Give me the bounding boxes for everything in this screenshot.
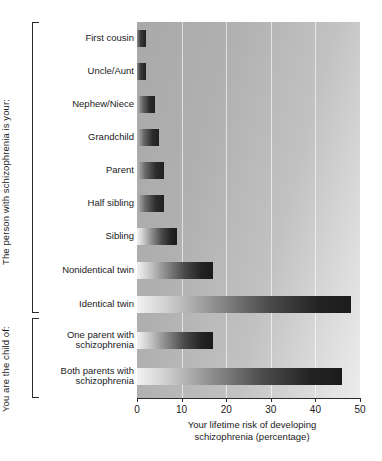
bar: [137, 228, 177, 245]
bar: [137, 262, 213, 279]
x-tick-label: 10: [167, 404, 197, 415]
x-tick-label: 40: [300, 404, 330, 415]
category-label: Half sibling: [42, 198, 134, 209]
category-label: One parent with schizophrenia: [42, 330, 134, 351]
x-tick-label: 20: [211, 404, 241, 415]
category-label: Sibling: [42, 231, 134, 242]
category-label: Parent: [42, 165, 134, 176]
category-label: First cousin: [42, 33, 134, 44]
plot-area: [137, 22, 360, 398]
x-tick-label: 0: [122, 404, 152, 415]
bar: [137, 332, 213, 349]
bar: [137, 296, 351, 313]
category-label: Both parents with schizophrenia: [42, 366, 134, 387]
bracket-children: [32, 318, 39, 398]
x-tick-label: 50: [345, 404, 375, 415]
x-axis-line: [137, 398, 360, 399]
gridline-40: [315, 22, 316, 398]
bracket-relatives: [32, 22, 39, 313]
category-label: Grandchild: [42, 132, 134, 143]
bar: [137, 195, 164, 212]
category-label: Nonidentical twin: [42, 265, 134, 276]
group-caption-children: You are the child of:: [0, 332, 14, 412]
bar: [137, 368, 342, 385]
bar: [137, 162, 164, 179]
category-label: Uncle/Aunt: [42, 66, 134, 77]
x-tick-0: [137, 398, 138, 402]
gridline-20: [226, 22, 227, 398]
x-tick-10: [182, 398, 183, 402]
x-axis-title: Your lifetime risk of developing schizop…: [137, 419, 367, 442]
category-label: Nephew/Niece: [42, 99, 134, 110]
gridline-30: [271, 22, 272, 398]
bar: [137, 63, 146, 80]
risk-bar-chart: The person with schizophrenia is your: Y…: [0, 0, 382, 461]
x-tick-40: [315, 398, 316, 402]
x-tick-30: [271, 398, 272, 402]
group-caption-relatives: The person with schizophrenia is your:: [0, 36, 14, 328]
category-label: Identical twin: [42, 299, 134, 310]
bar: [137, 129, 159, 146]
bar: [137, 30, 146, 47]
x-tick-50: [360, 398, 361, 402]
x-tick-label: 30: [256, 404, 286, 415]
category-label-column: First cousinUncle/AuntNephew/NieceGrandc…: [42, 22, 134, 398]
bar: [137, 96, 155, 113]
x-tick-20: [226, 398, 227, 402]
